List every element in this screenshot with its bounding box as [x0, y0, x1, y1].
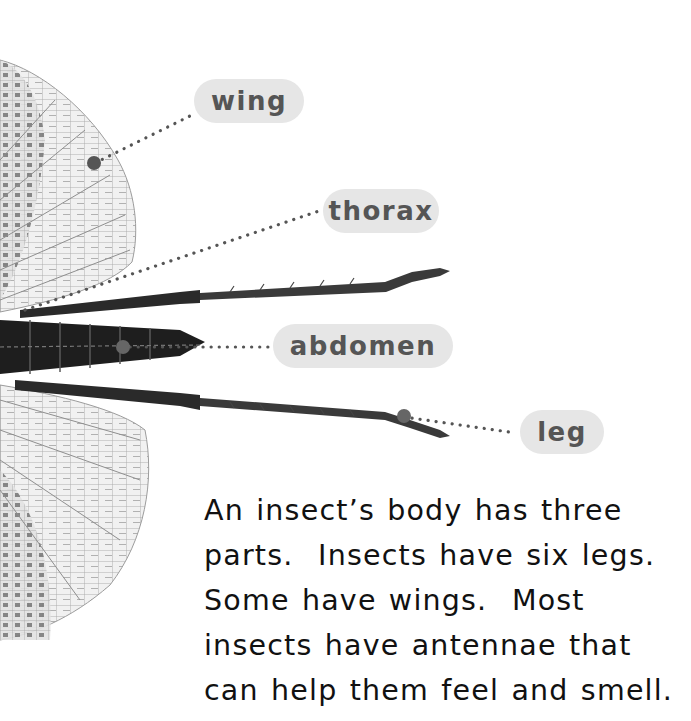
abdomen-body: [0, 320, 205, 374]
upper-wing: [0, 60, 136, 312]
body-paragraph: An insect’s body has three parts. Insect…: [204, 488, 684, 713]
body-line-4: insects have antennae that: [204, 623, 684, 668]
leg-label: leg: [520, 410, 604, 454]
wing-pointer-line: [95, 113, 196, 163]
body-line-5: can help them feel and smell.: [204, 668, 684, 713]
thorax-label: thorax: [323, 189, 439, 233]
wing-label: wing: [194, 79, 304, 123]
body-line-1: An insect’s body has three: [204, 488, 684, 533]
abdomen-pointer-dot: [116, 340, 130, 354]
wing-pointer-dot: [87, 156, 101, 170]
lower-wing: [0, 385, 149, 640]
abdomen-label: abdomen: [273, 324, 453, 368]
leg-pointer-dot: [397, 409, 411, 423]
body-line-2: parts. Insects have six legs.: [204, 533, 684, 578]
body-line-3: Some have wings. Most: [204, 578, 684, 623]
